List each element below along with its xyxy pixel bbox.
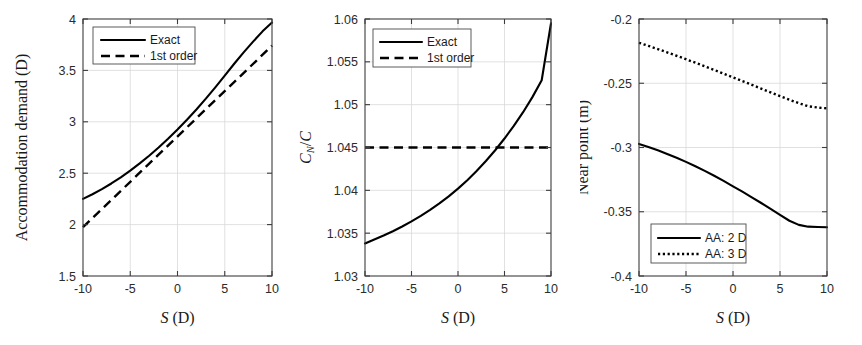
x-axis-title: S (D) bbox=[716, 309, 750, 327]
y-tick-label: -0.4 bbox=[610, 270, 632, 284]
y-tick-label: 4 bbox=[69, 13, 76, 27]
legend-label: AA: 2 D bbox=[705, 231, 747, 245]
y-tick-label: -0.2 bbox=[610, 13, 632, 27]
y-tick-label: -0.3 bbox=[610, 141, 632, 155]
x-tick-label: 5 bbox=[777, 282, 784, 296]
y-tick-label: 1.06 bbox=[334, 13, 358, 27]
x-axis-title: S (D) bbox=[441, 309, 475, 327]
y-axis-title: CN/C bbox=[297, 131, 316, 164]
x-tick-label: -10 bbox=[74, 282, 92, 296]
y-tick-label: 1.035 bbox=[327, 227, 358, 241]
y-tick-label: 2.5 bbox=[59, 167, 76, 181]
legend-label: Exact bbox=[427, 35, 458, 49]
y-axis-title: Near point (m) bbox=[580, 100, 592, 195]
panel-cn-over-c: -10-505101.031.0351.041.0451.051.0551.06… bbox=[290, 0, 580, 345]
x-tick-label: 0 bbox=[174, 282, 181, 296]
y-tick-label: 1.5 bbox=[59, 270, 76, 284]
x-tick-label: -10 bbox=[630, 282, 648, 296]
panel-accommodation-demand: -10-505101.522.533.54S (D)Accommodation … bbox=[0, 0, 290, 345]
y-tick-label: 1.045 bbox=[327, 141, 358, 155]
x-tick-label: 10 bbox=[820, 282, 834, 296]
x-tick-label: 0 bbox=[730, 282, 737, 296]
y-tick-label: 1.04 bbox=[334, 184, 358, 198]
x-tick-label: -5 bbox=[125, 282, 136, 296]
legend-label: 1st order bbox=[150, 49, 197, 63]
x-tick-label: 10 bbox=[265, 282, 279, 296]
y-tick-label: 1.05 bbox=[334, 98, 358, 112]
y-axis-title: Accommodation demand (D) bbox=[13, 54, 31, 242]
legend-label: AA: 3 D bbox=[705, 247, 747, 261]
x-tick-label: -10 bbox=[356, 282, 374, 296]
x-tick-label: -5 bbox=[406, 282, 417, 296]
x-tick-label: -5 bbox=[680, 282, 691, 296]
y-tick-label: 3.5 bbox=[59, 64, 76, 78]
y-tick-label: -0.35 bbox=[604, 205, 633, 219]
y-tick-label: 1.055 bbox=[327, 55, 358, 69]
legend-label: 1st order bbox=[427, 51, 474, 65]
y-tick-label: 2 bbox=[69, 218, 76, 232]
x-tick-label: 5 bbox=[501, 282, 508, 296]
legend-label: Exact bbox=[150, 33, 181, 47]
x-axis-title: S (D) bbox=[160, 309, 194, 327]
x-tick-label: 0 bbox=[455, 282, 462, 296]
figure-container: -10-505101.522.533.54S (D)Accommodation … bbox=[0, 0, 862, 345]
panel-near-point: -10-50510-0.4-0.35-0.3-0.25-0.2S (D)Near… bbox=[580, 0, 862, 345]
x-tick-label: 5 bbox=[221, 282, 228, 296]
y-tick-label: 3 bbox=[69, 115, 76, 129]
y-tick-label: 1.03 bbox=[334, 270, 358, 284]
x-tick-label: 10 bbox=[544, 282, 558, 296]
y-tick-label: -0.25 bbox=[604, 77, 633, 91]
